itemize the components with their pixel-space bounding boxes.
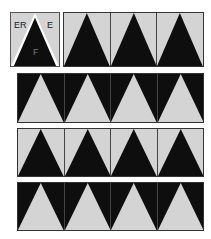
- triangle-cell: [111, 74, 158, 122]
- triangle-cell: [158, 183, 204, 230]
- triangle-cell: [65, 129, 112, 176]
- triangle-cell: [158, 129, 204, 176]
- triangle-cell: [111, 183, 158, 230]
- triangle-cell: [111, 129, 158, 176]
- dark-triangle-icon: [111, 129, 157, 176]
- triangle-cell: [157, 13, 203, 66]
- dark-triangle-icon: [18, 129, 64, 176]
- light-triangle-icon: [18, 183, 64, 230]
- dark-triangle-icon: [111, 13, 157, 66]
- row-2: [17, 73, 204, 123]
- light-triangle-icon: [111, 74, 157, 122]
- legend-tile: ER E F: [10, 12, 60, 67]
- label-e: E: [47, 21, 53, 30]
- light-triangle-icon: [65, 183, 111, 230]
- dark-triangle-icon: [64, 13, 110, 66]
- triangle-cell: [18, 129, 65, 176]
- triangle-cell: [111, 13, 158, 66]
- light-triangle-icon: [111, 183, 157, 230]
- triangle-cell: [18, 74, 65, 122]
- light-triangle-icon: [65, 74, 111, 122]
- label-er: ER: [14, 21, 27, 30]
- row-1: [63, 12, 204, 67]
- light-triangle-icon: [158, 74, 204, 122]
- dark-triangle-icon: [157, 13, 203, 66]
- triangle-cell: [65, 74, 112, 122]
- dark-triangle-icon: [65, 129, 111, 176]
- row-3: [17, 128, 204, 177]
- dark-triangle-icon: [158, 129, 204, 176]
- triangle-cell: [65, 183, 112, 230]
- light-triangle-icon: [18, 74, 64, 122]
- triangle-cell: [64, 13, 111, 66]
- label-f: F: [33, 48, 39, 57]
- light-triangle-icon: [158, 183, 204, 230]
- row-4: [17, 182, 204, 231]
- triangle-cell: [158, 74, 204, 122]
- triangle-cell: [18, 183, 65, 230]
